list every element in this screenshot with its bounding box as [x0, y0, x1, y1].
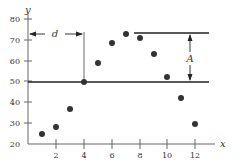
data-point	[151, 51, 157, 57]
data-point	[123, 31, 129, 37]
d-label: d	[52, 28, 58, 39]
data-point	[109, 40, 115, 46]
x-tick-labels: 2 4 6 8 10 12	[53, 151, 200, 160]
svg-text:8: 8	[137, 151, 142, 160]
svg-text:4: 4	[81, 151, 86, 160]
svg-text:60: 60	[10, 57, 20, 66]
svg-text:6: 6	[109, 151, 114, 160]
svg-text:70: 70	[10, 36, 20, 45]
data-point	[164, 74, 170, 80]
y-tick-labels: 80 70 60 50 40 30 20	[10, 15, 20, 149]
data-point	[67, 106, 73, 112]
data-points	[39, 31, 198, 137]
svg-text:80: 80	[10, 15, 20, 24]
svg-text:50: 50	[10, 77, 20, 86]
data-point	[178, 95, 184, 101]
y-axis-label: y	[24, 4, 31, 15]
scatter-chart: y x 80 70 60 50 40 30 20 2 4 6 8 10 12	[0, 0, 240, 167]
amplitude-label: A	[185, 53, 193, 64]
svg-text:12: 12	[190, 151, 200, 160]
data-point	[192, 121, 198, 127]
data-point	[53, 124, 59, 130]
svg-text:40: 40	[10, 98, 20, 107]
svg-text:10: 10	[162, 151, 172, 160]
data-point	[137, 35, 143, 41]
data-point	[81, 79, 87, 85]
svg-text:2: 2	[53, 151, 58, 160]
data-point	[39, 131, 45, 137]
svg-text:30: 30	[10, 119, 20, 128]
x-axis-label: x	[220, 138, 226, 149]
data-point	[95, 60, 101, 66]
svg-text:20: 20	[10, 140, 20, 149]
